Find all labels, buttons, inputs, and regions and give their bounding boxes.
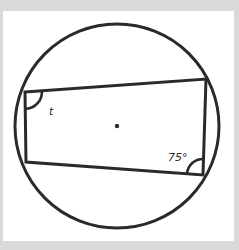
angle-arc-t <box>26 91 42 109</box>
angle-label-t: t <box>49 105 54 118</box>
geometry-diagram: t 75° <box>0 0 239 250</box>
diagram-frame: t 75° <box>0 0 239 250</box>
angle-arc-75 <box>187 159 204 174</box>
center-dot <box>115 124 119 128</box>
angle-label-75: 75° <box>168 151 188 164</box>
